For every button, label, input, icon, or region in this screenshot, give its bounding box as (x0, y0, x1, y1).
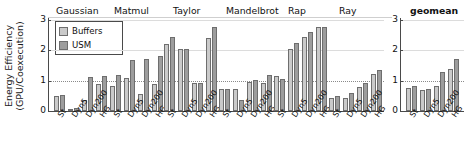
y-tick-label-1: 1 (386, 76, 398, 85)
bar-buffers (219, 89, 224, 111)
group-title-gaussian: Gaussian (56, 5, 99, 16)
bar-buffers (420, 90, 425, 111)
bar-buffers (178, 49, 183, 111)
y-tick-label-3: 3 (386, 15, 398, 24)
y-axis-line (400, 18, 401, 111)
bar-usm (116, 75, 121, 111)
energy-efficiency-bar-chart: Energy Efficiency (GPU/Coexecution) Buff… (0, 0, 469, 149)
y-tick-mark (400, 81, 403, 82)
bar-usm (308, 32, 313, 111)
y-tick-label-2: 2 (386, 45, 398, 54)
y-tick-mark (400, 111, 403, 112)
group-title-rap: Rap (288, 5, 306, 16)
group-title-mandelbrot: Mandelbrot (226, 5, 279, 16)
bar-buffers (406, 88, 411, 111)
y-tick-mark (48, 111, 51, 112)
y-axis-title-line1: Energy Efficiency (3, 25, 15, 107)
y-axis-line (48, 18, 49, 111)
bar-usm (170, 37, 175, 111)
y-tick-mark (400, 20, 403, 21)
y-tick-label-2: 2 (34, 45, 46, 54)
y-axis-title: Energy Efficiency (GPU/Coexecution) (0, 16, 62, 116)
group-title-ray: Ray (339, 5, 356, 16)
group-title-taylor: Taylor (173, 5, 200, 16)
bar-buffers (274, 76, 279, 111)
y-axis-title-line2: (GPU/Coexecution) (14, 21, 26, 110)
bar-buffers (164, 44, 169, 111)
y-tick-label-3: 3 (34, 15, 46, 24)
group-title-geomean: geomean (410, 5, 458, 16)
bar-buffers (233, 89, 238, 111)
header-rule (48, 17, 392, 18)
y-tick-label-0: 0 (386, 106, 398, 115)
y-tick-mark (48, 20, 51, 21)
bar-usm (280, 79, 285, 111)
bar-buffers (288, 49, 293, 111)
bar-buffers (124, 78, 129, 111)
group-title-matmul: Matmul (114, 5, 149, 16)
y-tick-label-1: 1 (34, 76, 46, 85)
y-tick-mark (48, 81, 51, 82)
y-tick-mark (400, 50, 403, 51)
bar-buffers (110, 86, 115, 111)
y-tick-label-0: 0 (34, 106, 46, 115)
y-tick-mark (48, 50, 51, 51)
